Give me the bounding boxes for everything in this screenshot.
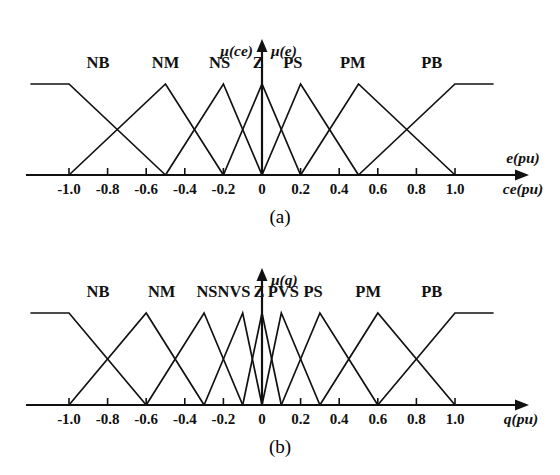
x-tick-label--0.6: -0.6 (134, 411, 158, 427)
set-label-nb: NB (86, 53, 109, 72)
caption-b: (b) (0, 436, 560, 458)
x-tick-label--1.0: -1.0 (57, 181, 81, 197)
x-tick-label--0.2: -0.2 (212, 411, 236, 427)
x-tick-label-0.4: 0.4 (330, 181, 349, 197)
set-labels: NBNMNSNVSZPVSPSPMPB (86, 282, 442, 301)
set-label-pb: PB (421, 282, 442, 301)
mf-curve-nb (30, 84, 165, 175)
y-axis-arrowhead (257, 39, 268, 52)
set-label-z: Z (253, 53, 264, 72)
x-tick-label-0.8: 0.8 (407, 411, 426, 427)
set-label-nb: NB (86, 282, 109, 301)
x-tick-label-0.8: 0.8 (407, 181, 426, 197)
x-tick-label-0.2: 0.2 (291, 181, 310, 197)
set-label-nvs: NVS (218, 282, 251, 301)
set-label-z: Z (254, 282, 265, 301)
x-tick-label-0.6: 0.6 (368, 181, 387, 197)
set-label-pb: PB (421, 53, 442, 72)
mf-curve-nm (69, 313, 204, 405)
mf-curve-pm (320, 313, 455, 405)
fuzzy-membership-figure: -1.0-0.8-0.6-0.4-0.200.20.40.60.81.0NBNM… (0, 0, 560, 475)
caption-a: (a) (0, 206, 560, 228)
y-axis-title-left: μ(ce) (219, 42, 253, 60)
set-label-ns: NS (196, 282, 217, 301)
mf-curve-nvs (204, 313, 262, 405)
x-tick-label--0.4: -0.4 (173, 411, 197, 427)
x-tick-label--0.8: -0.8 (96, 411, 120, 427)
x-tick-label--1.0: -1.0 (57, 411, 81, 427)
mf-curve-pb (359, 84, 494, 175)
x-axis-title-bottom: q(pu) (504, 410, 538, 428)
x-tick-label-0: 0 (258, 411, 266, 427)
x-tick-label--0.8: -0.8 (96, 181, 120, 197)
mf-curve-pb (378, 313, 494, 405)
membership-chart-a: -1.0-0.8-0.6-0.4-0.200.20.40.60.81.0NBNM… (0, 0, 560, 240)
y-axis-title-right: μ(q) (270, 271, 298, 289)
x-axis-arrowhead (515, 400, 529, 411)
mf-curve-pm (301, 84, 455, 175)
y-axis-title-right: μ(e) (270, 42, 297, 60)
x-tick-label-0.4: 0.4 (330, 411, 349, 427)
set-label-nm: NM (148, 282, 176, 301)
set-label-pm: PM (340, 53, 366, 72)
x-tick-label-0.2: 0.2 (291, 411, 310, 427)
x-tick-label-1.0: 1.0 (446, 181, 465, 197)
set-label-ps: PS (304, 282, 323, 301)
x-tick-label-1.0: 1.0 (446, 411, 465, 427)
mf-curve-nm (69, 84, 223, 175)
x-tick-label--0.2: -0.2 (212, 181, 236, 197)
x-axis-title-top: e(pu) (506, 149, 540, 167)
set-label-nm: NM (152, 53, 180, 72)
x-tick-label--0.6: -0.6 (134, 181, 158, 197)
mf-curve-pvs (262, 313, 320, 405)
set-labels: NBNMNSZPSPMPB (86, 53, 442, 72)
chart-panel-a: -1.0-0.8-0.6-0.4-0.200.20.40.60.81.0NBNM… (0, 0, 560, 240)
x-axis-title-bottom: ce(pu) (503, 180, 543, 198)
y-axis-arrowhead (257, 268, 268, 281)
x-tick-label--0.4: -0.4 (173, 181, 197, 197)
x-axis-arrowhead (515, 170, 529, 181)
x-tick-label-0: 0 (258, 181, 266, 197)
mf-curve-nb (30, 313, 146, 405)
set-label-pm: PM (355, 282, 381, 301)
x-tick-label-0.6: 0.6 (368, 411, 387, 427)
